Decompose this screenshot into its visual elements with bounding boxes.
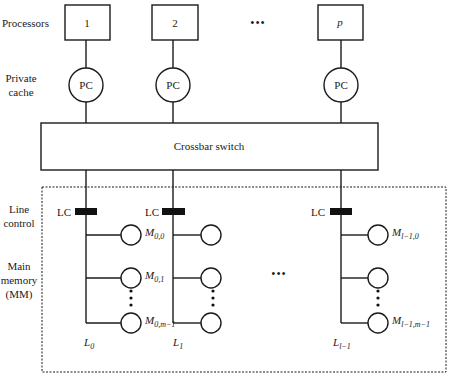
private-cache-1: PC xyxy=(69,68,103,102)
memory-module-l-1-1 xyxy=(368,268,388,288)
processor-p-label: p xyxy=(336,16,343,28)
memory-line-1-label: L1 xyxy=(172,336,183,351)
memory-module-1-m-1 xyxy=(201,313,221,333)
memory-module-0-1 xyxy=(121,268,141,288)
processors-ellipsis: ••• xyxy=(250,16,266,30)
memory-module-1-1 xyxy=(201,268,221,288)
memory-module-l-1-0 xyxy=(368,225,388,245)
processor-2: 2 xyxy=(152,5,198,40)
memory-module-0-0 xyxy=(121,225,141,245)
private-cache-p-label: PC xyxy=(334,79,347,91)
memory-lines-ellipsis: ••• xyxy=(271,267,287,281)
processors-label: Processors xyxy=(2,17,49,29)
private-cache-label-line2: cache xyxy=(8,86,33,98)
memory-line-l-1: LC Ml−1,0 Ml−1,m−1 Ll−1 xyxy=(311,170,430,351)
private-cache-1-label: PC xyxy=(79,79,92,91)
line-control-0-label: LC xyxy=(57,206,71,218)
private-cache-label-line1: Private xyxy=(5,72,36,84)
private-cache-2: PC xyxy=(156,68,190,102)
memory-line-0-label: L0 xyxy=(83,336,94,351)
processor-p: p xyxy=(318,5,363,40)
line-control-1-bar xyxy=(162,208,185,215)
line-control-label-line1: Line xyxy=(9,203,29,215)
memory-module-0-0-label: M0,0 xyxy=(144,226,164,241)
processor-1-label: 1 xyxy=(84,17,90,29)
main-memory-label-line1: Main xyxy=(7,260,31,272)
line-control-l-1-bar xyxy=(330,208,352,215)
memory-module-0-m-1 xyxy=(121,313,141,333)
memory-line-l-1-label: Ll−1 xyxy=(332,336,351,351)
crossbar-multiprocessor-diagram: Processors Private cache Line control Ma… xyxy=(0,0,449,376)
memory-module-l-1-m-1 xyxy=(368,313,388,333)
main-memory-label-line3: (MM) xyxy=(6,288,33,301)
private-cache-p: PC xyxy=(324,68,358,102)
memory-module-0-m-1-label: M0,m−1 xyxy=(144,314,175,329)
main-memory-label-line2: memory xyxy=(1,274,38,286)
line-control-1-label: LC xyxy=(145,206,159,218)
processor-1: 1 xyxy=(65,5,110,40)
memory-module-0-1-label: M0,1 xyxy=(144,269,164,284)
memory-module-1-0 xyxy=(201,225,221,245)
crossbar-switch-label: Crossbar switch xyxy=(174,140,245,152)
memory-line-0: LC M0,0 M0,1 M0,m−1 L0 xyxy=(57,170,175,351)
line-control-label-line2: control xyxy=(3,217,34,229)
line-control-0-bar xyxy=(75,208,97,215)
memory-module-l-1-0-label: Ml−1,0 xyxy=(391,226,419,241)
memory-module-l-1-m-1-label: Ml−1,m−1 xyxy=(391,314,430,329)
processor-2-label: 2 xyxy=(172,17,178,29)
line-control-l-1-label: LC xyxy=(311,206,325,218)
crossbar-switch: Crossbar switch xyxy=(41,123,378,170)
private-cache-2-label: PC xyxy=(166,79,179,91)
